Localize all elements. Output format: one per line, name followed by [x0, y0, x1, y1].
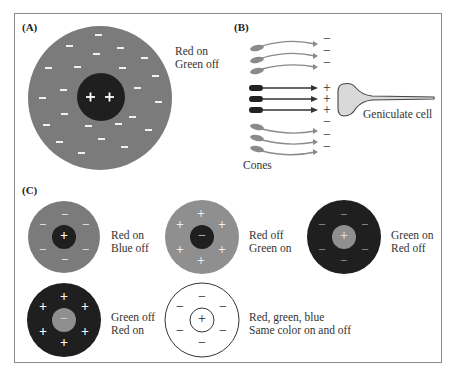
surround-sign: +: [197, 254, 205, 267]
sign: −: [323, 56, 331, 69]
surround-sign: −: [361, 243, 368, 256]
panel-label-b: (B): [234, 21, 249, 33]
center-sign: +: [340, 229, 348, 242]
surround-sign: −: [82, 218, 89, 231]
surround-sign: −: [198, 290, 206, 303]
surround-sign: −: [39, 218, 46, 231]
cones-label: Cones: [243, 159, 272, 172]
panel-a-caption-line2: Green off: [175, 58, 219, 71]
surround-sign: −: [361, 218, 368, 231]
center-sign: −: [198, 229, 206, 242]
center-sign: +: [198, 312, 206, 325]
panel-a-caption-line1: Red on: [175, 45, 208, 58]
surround-sign: +: [81, 300, 89, 313]
cell-5-caption-line2: Same color on and off: [249, 324, 351, 337]
cell-2-caption-line2: Green on: [249, 242, 291, 255]
surround-sign: −: [82, 243, 89, 256]
figure-graphics: [0, 0, 456, 380]
center-sign: −: [60, 312, 68, 325]
panel-label-a: (A): [22, 21, 37, 33]
surround-sign: −: [340, 254, 347, 267]
cell-1-caption-line1: Red on: [111, 229, 144, 242]
surround-sign: +: [197, 207, 205, 220]
cell-2-caption-line1: Red off: [249, 229, 284, 242]
surround-sign: −: [176, 324, 184, 337]
cones-lower-gray: [250, 123, 318, 155]
surround-sign: −: [61, 208, 68, 221]
surround-sign: +: [60, 336, 68, 349]
surround-sign: +: [218, 218, 226, 231]
surround-sign: −: [219, 300, 227, 313]
sign: −: [323, 140, 331, 153]
panel-label-c: (C): [22, 184, 37, 196]
surround-sign: +: [176, 243, 184, 256]
surround-sign: −: [61, 253, 68, 266]
cell-3-caption-line2: Red off: [391, 242, 426, 255]
surround-sign: +: [81, 325, 89, 338]
surround-sign: +: [39, 300, 47, 313]
surround-sign: +: [218, 243, 226, 256]
surround-sign: −: [176, 300, 184, 313]
surround-sign: +: [39, 325, 47, 338]
cell-3-caption-line1: Green on: [391, 229, 433, 242]
geniculate-cell-label: Geniculate cell: [363, 108, 432, 121]
cones-middle-dark: [249, 85, 318, 113]
surround-sign: −: [318, 218, 325, 231]
cell-5-caption-line1: Red, green, blue: [249, 311, 324, 324]
center-sign: +: [60, 229, 68, 242]
panel-a-receptive-field: [28, 26, 172, 170]
cell-4-caption-line1: Green off: [111, 311, 155, 324]
cell-1-caption-line2: Blue off: [111, 242, 149, 255]
surround-sign: −: [340, 208, 347, 221]
surround-sign: +: [60, 290, 68, 303]
surround-sign: −: [39, 243, 46, 256]
panel-b-wiring: [249, 41, 434, 155]
surround-sign: −: [198, 336, 206, 349]
surround-sign: −: [318, 243, 325, 256]
surround-sign: +: [176, 218, 184, 231]
surround-sign: −: [219, 324, 227, 337]
cell-4-caption-line2: Red on: [111, 324, 144, 337]
cones-upper-gray: [250, 41, 318, 75]
